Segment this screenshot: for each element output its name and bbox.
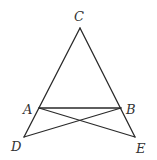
label-d: D xyxy=(10,139,22,154)
label-a: A xyxy=(22,102,32,117)
segment-ae xyxy=(39,108,135,137)
segment-bd xyxy=(24,108,121,137)
label-b: B xyxy=(125,102,136,117)
label-c: C xyxy=(74,9,84,24)
segments xyxy=(24,28,135,137)
segment-cd xyxy=(24,28,80,137)
geometry-diagram: C A B D E xyxy=(0,0,157,160)
label-e: E xyxy=(135,141,146,156)
segment-ce xyxy=(80,28,135,137)
